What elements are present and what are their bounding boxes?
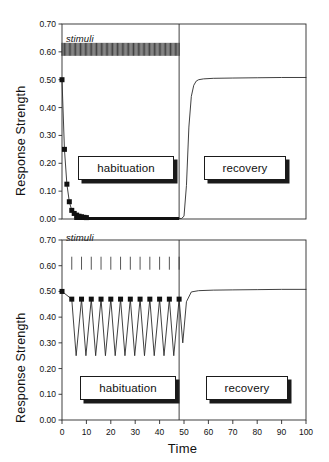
svg-text:0.10: 0.10 [39,389,56,399]
svg-text:0.50: 0.50 [39,286,56,296]
svg-text:0.00: 0.00 [39,415,56,425]
svg-text:0.10: 0.10 [39,186,56,196]
figure-container: Response Strength stimuli habituation re… [0,0,329,462]
top-panel-plot: 0.000.100.200.300.400.500.600.70 [0,0,329,225]
bottom-panel-plot: 0.000.100.200.300.400.500.600.70 0102030… [0,222,329,462]
bottom-panel-data-markers [60,289,182,302]
svg-text:0.70: 0.70 [39,235,56,245]
svg-text:40: 40 [155,427,165,437]
svg-text:0.30: 0.30 [39,130,56,140]
svg-text:80: 80 [252,427,262,437]
svg-text:60: 60 [204,427,214,437]
svg-text:0.50: 0.50 [39,75,56,85]
svg-text:0.40: 0.40 [39,312,56,322]
bottom-panel-stimuli-marks [72,257,179,270]
svg-text:30: 30 [130,427,140,437]
svg-text:0.70: 0.70 [39,19,56,29]
svg-text:0.60: 0.60 [39,47,56,57]
svg-text:0.30: 0.30 [39,338,56,348]
svg-text:50: 50 [179,427,189,437]
svg-text:0: 0 [60,427,65,437]
top-panel-response-curve [62,77,306,218]
top-panel-data-markers [60,77,89,220]
svg-text:20: 20 [106,427,116,437]
svg-text:0.20: 0.20 [39,158,56,168]
svg-text:0.20: 0.20 [39,364,56,374]
top-panel-stimuli-marks [62,43,179,56]
svg-text:0.40: 0.40 [39,103,56,113]
svg-text:100: 100 [299,427,313,437]
svg-text:0.60: 0.60 [39,261,56,271]
svg-text:90: 90 [277,427,287,437]
svg-text:10: 10 [82,427,92,437]
x-axis: 0102030405060708090100 [60,420,314,437]
bottom-panel-axes: 0.000.100.200.300.400.500.600.70 [39,235,306,425]
x-axis-title: Time [0,441,329,456]
svg-text:70: 70 [228,427,238,437]
